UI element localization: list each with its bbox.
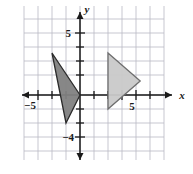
y-axis: [75, 12, 85, 160]
y-axis-arrow-up: [77, 12, 84, 19]
x-axis: [22, 90, 172, 100]
x-axis-arrow-left: [22, 92, 29, 99]
grid-lines: [24, 6, 164, 160]
y-axis-name: y: [83, 3, 90, 15]
x-axis-name: x: [178, 89, 185, 101]
coordinate-plane-figure: −5 5 5 −4 x y: [0, 0, 193, 174]
y-axis-arrow-down: [77, 153, 84, 160]
coordinate-plane-svg: −5 5 5 −4 x y: [0, 0, 193, 174]
x-axis-label-negative-five: −5: [24, 99, 36, 111]
y-axis-label-positive-five: 5: [66, 27, 72, 39]
y-axis-label-negative-four: −4: [62, 131, 74, 143]
x-axis-arrow-right: [165, 92, 172, 99]
x-axis-label-positive-five: 5: [129, 100, 135, 112]
image-triangle: [108, 53, 140, 109]
